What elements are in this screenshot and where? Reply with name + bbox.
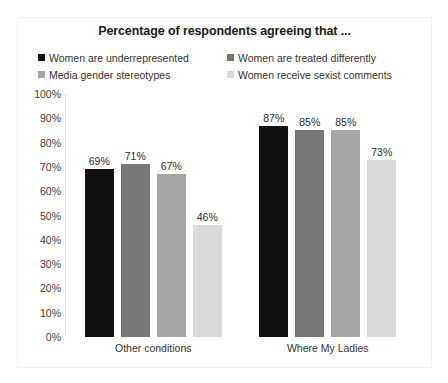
legend-swatch-icon bbox=[227, 71, 234, 78]
chart-title: Percentage of respondents agreeing that … bbox=[18, 24, 431, 38]
y-axis-tick-label: 20% bbox=[40, 282, 61, 294]
bar-group: 87%85%85%73% bbox=[241, 94, 416, 337]
bar-value-label: 73% bbox=[371, 146, 392, 158]
bar[interactable] bbox=[367, 160, 396, 337]
y-axis-tick-label: 80% bbox=[40, 137, 61, 149]
y-axis-tick-label: 90% bbox=[40, 112, 61, 124]
legend-item-women-receive-sexist-comments[interactable]: Women receive sexist comments bbox=[227, 66, 416, 83]
legend-item-women-are-treated-differently[interactable]: Women are treated differently bbox=[227, 49, 416, 66]
bar-value-label: 67% bbox=[161, 160, 182, 172]
legend-label: Women are treated differently bbox=[238, 52, 376, 64]
y-axis-tick-label: 100% bbox=[34, 88, 61, 100]
bar-set: 69%71%67%46% bbox=[85, 94, 222, 337]
bar-groups: 69%71%67%46%87%85%85%73% bbox=[66, 94, 415, 337]
bar-value-label: 46% bbox=[197, 211, 218, 223]
bar-value-label: 85% bbox=[299, 116, 320, 128]
chart-container: Percentage of respondents agreeing that … bbox=[17, 17, 432, 368]
bar[interactable] bbox=[295, 130, 324, 337]
bar-group: 69%71%67%46% bbox=[66, 94, 241, 337]
bar-value-label: 69% bbox=[89, 155, 110, 167]
bar-slot: 87% bbox=[259, 94, 288, 337]
bar-slot: 85% bbox=[295, 94, 324, 337]
bar[interactable] bbox=[157, 174, 186, 337]
x-axis-category-label: Other conditions bbox=[66, 342, 241, 354]
bar[interactable] bbox=[331, 130, 360, 337]
bar[interactable] bbox=[259, 126, 288, 337]
y-axis-tick-label: 70% bbox=[40, 161, 61, 173]
legend-swatch-icon bbox=[227, 54, 234, 61]
chart-legend: Women are underrepresented Women are tre… bbox=[38, 49, 416, 83]
bar-value-label: 85% bbox=[335, 116, 356, 128]
bar-slot: 46% bbox=[193, 94, 222, 337]
x-axis-labels: Other conditionsWhere My Ladies bbox=[66, 342, 415, 354]
x-axis-category-label: Where My Ladies bbox=[241, 342, 416, 354]
bar-set: 87%85%85%73% bbox=[259, 94, 396, 337]
legend-item-women-are-underrepresented[interactable]: Women are underrepresented bbox=[38, 49, 227, 66]
bar-value-label: 71% bbox=[125, 150, 146, 162]
bar[interactable] bbox=[193, 225, 222, 337]
bar-slot: 69% bbox=[85, 94, 114, 337]
legend-swatch-icon bbox=[38, 54, 45, 61]
bar-slot: 67% bbox=[157, 94, 186, 337]
legend-label: Women receive sexist comments bbox=[238, 69, 392, 81]
plot-area: 100%90%80%70%60%50%40%30%20%10%0% 69%71%… bbox=[65, 94, 415, 337]
bar[interactable] bbox=[85, 169, 114, 337]
legend-item-media-gender-stereotypes[interactable]: Media gender stereotypes bbox=[38, 66, 227, 83]
y-axis-tick-label: 10% bbox=[40, 307, 61, 319]
y-axis-tick-label: 0% bbox=[46, 331, 61, 343]
bar-value-label: 87% bbox=[263, 112, 284, 124]
bar-slot: 85% bbox=[331, 94, 360, 337]
y-axis-tick-label: 30% bbox=[40, 258, 61, 270]
y-axis-tick-label: 40% bbox=[40, 234, 61, 246]
legend-label: Women are underrepresented bbox=[49, 52, 189, 64]
y-axis-tick-label: 50% bbox=[40, 210, 61, 222]
legend-label: Media gender stereotypes bbox=[49, 69, 170, 81]
y-axis-tick-label: 60% bbox=[40, 185, 61, 197]
bar[interactable] bbox=[121, 164, 150, 337]
legend-swatch-icon bbox=[38, 71, 45, 78]
bar-slot: 73% bbox=[367, 94, 396, 337]
bar-slot: 71% bbox=[121, 94, 150, 337]
